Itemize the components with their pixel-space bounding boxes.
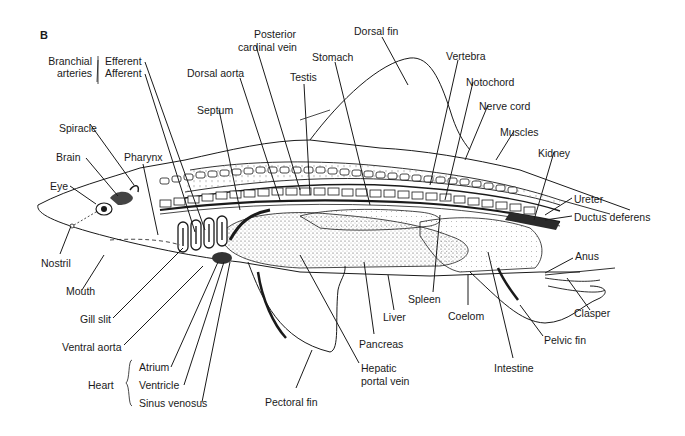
gill-arches <box>178 216 227 252</box>
panel-label: B <box>40 29 48 41</box>
label-gill-slit: Gill slit <box>80 313 111 325</box>
label-notochord: Notochord <box>466 76 514 88</box>
heart-shape <box>212 252 232 264</box>
label-nostril: Nostril <box>41 257 71 269</box>
label-heart: Heart <box>88 379 114 391</box>
label-pancreas: Pancreas <box>359 338 403 350</box>
label-coelom: Coelom <box>448 310 484 322</box>
label-vertebra: Vertebra <box>446 50 486 62</box>
pectoral-fin-outline <box>248 262 345 352</box>
label-ventral-aorta: Ventral aorta <box>62 341 122 353</box>
label-pelvic-fin: Pelvic fin <box>544 334 586 346</box>
label-mouth: Mouth <box>66 285 95 297</box>
label-septum: Septum <box>197 104 233 116</box>
label-pharynx: Pharynx <box>124 151 163 163</box>
dorsal-fin-outline <box>310 58 470 150</box>
label-hepatic-portal-vein-line2: portal vein <box>361 375 409 387</box>
label-branchial-arteries-line1: Branchial <box>37 55 92 67</box>
label-anus: Anus <box>575 250 599 262</box>
label-ureter: Ureter <box>574 193 603 205</box>
label-spiracle: Spiracle <box>59 122 97 134</box>
label-stomach: Stomach <box>312 51 353 63</box>
label-testis: Testis <box>290 71 317 83</box>
label-ventricle: Ventricle <box>139 379 179 391</box>
label-eye: Eye <box>50 180 68 192</box>
label-dorsal-aorta: Dorsal aorta <box>187 67 244 79</box>
label-nerve-cord: Nerve cord <box>479 100 530 112</box>
label-brain: Brain <box>56 151 81 163</box>
label-posterior-cardinal-vein-line2: cardinal vein <box>238 41 297 53</box>
label-efferent: Efferent <box>105 55 142 67</box>
label-branchial-arteries-line2: arteries <box>37 67 92 79</box>
spiracle-shape <box>130 186 138 192</box>
label-atrium: Atrium <box>139 361 169 373</box>
label-muscles: Muscles <box>500 126 539 138</box>
heart-bracket <box>126 360 132 406</box>
label-liver: Liver <box>383 311 406 323</box>
label-afferent: Afferent <box>105 67 142 79</box>
label-intestine: Intestine <box>494 362 534 374</box>
label-clasper: Clasper <box>574 307 610 319</box>
label-dorsal-fin: Dorsal fin <box>354 25 398 37</box>
label-ductus-deferens: Ductus deferens <box>574 211 650 223</box>
shark-anatomy-diagram: B Branchial arteries Efferent Afferent P… <box>0 0 685 436</box>
brain-shape <box>110 192 133 205</box>
label-hepatic-portal-vein-line1: Hepatic <box>361 362 397 374</box>
label-spleen: Spleen <box>408 293 441 305</box>
label-posterior-cardinal-vein-line1: Posterior <box>254 28 296 40</box>
label-kidney: Kidney <box>538 147 570 159</box>
label-sinus-venosus: Sinus venosus <box>139 397 207 409</box>
stomach-mass <box>300 209 440 230</box>
label-pectoral-fin: Pectoral fin <box>265 396 318 408</box>
